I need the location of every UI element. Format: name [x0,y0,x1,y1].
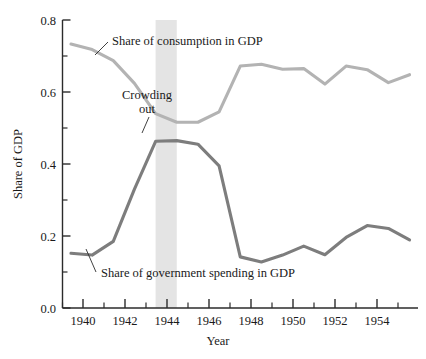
y-tick-label-0.8: 0.8 [40,14,56,28]
government-annotation-label: Share of government spending in GDP [101,266,295,280]
x-tick-label-1942: 1942 [113,314,138,328]
consumption-annotation-label: Share of consumption in GDP [112,34,263,48]
x-tick-label-1944: 1944 [155,314,181,328]
x-tick-label-1950: 1950 [281,314,306,328]
chart-svg: 0.8 0.6 0.4 0.2 0.0 1940 1942 1944 1946 … [0,0,426,359]
x-tick-label-1948: 1948 [239,314,264,328]
crowding-out-leader-line [142,117,149,133]
x-tick-label-1954: 1954 [365,314,391,328]
x-tick-label-1946: 1946 [197,314,222,328]
y-tick-label-0.0: 0.0 [40,302,56,316]
y-major-ticks [63,20,71,308]
y-axis-title: Share of GDP [11,129,25,199]
chart-figure: 0.8 0.6 0.4 0.2 0.0 1940 1942 1944 1946 … [0,0,426,359]
series-line-government [71,141,410,262]
y-tick-label-0.2: 0.2 [40,230,56,244]
x-minor-ticks [63,303,399,309]
x-axis-title: Year [206,334,230,348]
crowding-out-band [156,20,177,308]
x-tick-label-1952: 1952 [323,314,348,328]
y-tick-label-0.6: 0.6 [40,86,56,100]
crowding-out-annotation-line2: out [139,102,156,116]
series-line-consumption [71,44,410,122]
y-tick-label-0.4: 0.4 [40,158,56,172]
crowding-out-annotation-line1: Crowding [122,88,173,102]
x-tick-label-1940: 1940 [71,314,96,328]
